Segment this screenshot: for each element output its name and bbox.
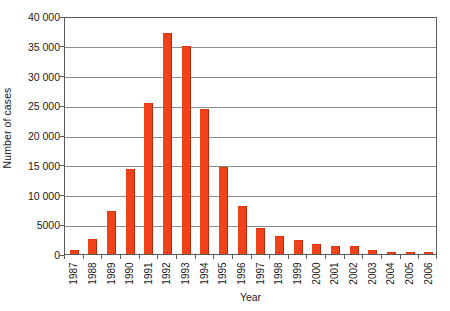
- bar: [256, 228, 265, 254]
- bar: [275, 236, 284, 254]
- y-axis-tick-mark: [60, 165, 64, 166]
- y-axis-tick-mark: [60, 17, 64, 18]
- y-axis-tick-mark: [60, 106, 64, 107]
- y-axis-tick-label: 10 000: [28, 190, 60, 202]
- y-axis-tick-label: 35 000: [28, 41, 60, 53]
- x-axis-title: Year: [64, 291, 437, 303]
- bar: [294, 240, 303, 254]
- x-axis-tick-label: 2006: [413, 259, 443, 289]
- bar-chart-figure: Number of cases 0500010 00015 00020 0002…: [0, 0, 450, 311]
- bar: [424, 252, 433, 254]
- y-axis-tick-label: 15 000: [28, 160, 60, 172]
- bar: [88, 239, 97, 254]
- bar: [331, 246, 340, 254]
- bar: [368, 250, 377, 254]
- x-axis-tick-label-text: 2006: [422, 262, 433, 284]
- y-axis-tick-label: 25 000: [28, 100, 60, 112]
- bar: [406, 252, 415, 254]
- bar: [387, 252, 396, 254]
- x-axis-tick-labels: 1987198819891990199119921993199419951996…: [64, 259, 437, 289]
- y-axis-tick-mark: [60, 195, 64, 196]
- bar-series: [65, 18, 436, 254]
- bar: [163, 33, 172, 254]
- bar: [107, 211, 116, 254]
- bar: [200, 109, 209, 254]
- bar: [219, 167, 228, 254]
- y-axis-tick-label: 20 000: [28, 130, 60, 142]
- y-axis-tick-label: 40 000: [28, 11, 60, 23]
- bar: [126, 169, 135, 254]
- y-axis-tick-label: 5000: [37, 219, 60, 231]
- plot-area: [64, 17, 437, 255]
- y-axis-title-text: Number of cases: [1, 87, 13, 168]
- bar: [312, 244, 321, 254]
- y-axis-tick-mark: [60, 46, 64, 47]
- bar: [182, 46, 191, 254]
- bar: [144, 103, 153, 254]
- y-axis-tick-mark: [60, 136, 64, 137]
- y-axis-tick-labels: 0500010 00015 00020 00025 00030 00035 00…: [14, 0, 64, 260]
- y-axis-tick-mark: [60, 76, 64, 77]
- bar: [350, 246, 359, 254]
- bar: [238, 206, 247, 254]
- y-axis-title: Number of cases: [0, 0, 14, 255]
- y-axis-tick-mark: [60, 225, 64, 226]
- y-axis-tick-label: 30 000: [28, 71, 60, 83]
- bar: [70, 250, 79, 254]
